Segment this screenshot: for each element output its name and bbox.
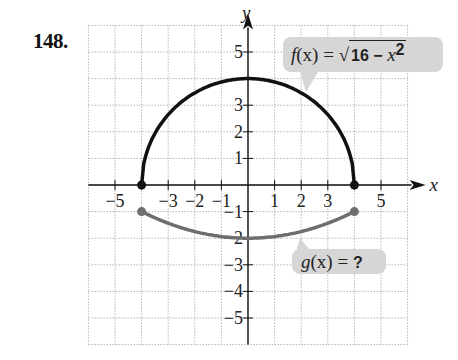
g-unknown: ? [353, 254, 363, 271]
sqrt-symbol: √16 − x2 [339, 37, 407, 72]
svg-text:−3: −3 [224, 255, 243, 275]
y-axis-label: y [240, 2, 251, 23]
x-axis-arrow-icon [410, 180, 426, 190]
f-radicand-exp: 2 [396, 41, 405, 58]
f-arg: (x) [296, 44, 318, 65]
f-endpoint [137, 181, 146, 190]
svg-text:−1: −1 [224, 202, 243, 222]
f-endpoint [350, 181, 359, 190]
svg-text:1: 1 [270, 191, 279, 211]
x-axis-label: x [429, 174, 439, 195]
g-endpoint [137, 207, 146, 216]
svg-text:1: 1 [234, 148, 243, 168]
g-arg: (x) [311, 251, 333, 272]
svg-text:5: 5 [377, 191, 386, 211]
g-name: g [301, 251, 311, 272]
svg-text:3: 3 [234, 95, 243, 115]
g-function-label: g(x) = ? [292, 249, 386, 274]
svg-text:−4: −4 [224, 281, 243, 301]
svg-text:−5: −5 [105, 191, 124, 211]
svg-text:2: 2 [234, 122, 243, 142]
svg-text:3: 3 [323, 191, 332, 211]
f-radicand-var: x [387, 44, 395, 65]
svg-text:−5: −5 [224, 308, 243, 328]
f-label-pointer [300, 72, 318, 92]
svg-text:2: 2 [297, 191, 306, 211]
svg-text:−2: −2 [185, 191, 204, 211]
g-equals: = [333, 251, 353, 272]
f-equals: = [318, 44, 338, 65]
svg-text:−3: −3 [159, 191, 178, 211]
g-endpoint [350, 207, 359, 216]
svg-text:5: 5 [234, 42, 243, 62]
f-function-label: f(x) = √16 − x2 [283, 37, 443, 72]
f-radicand-num: 16 − [351, 47, 387, 64]
